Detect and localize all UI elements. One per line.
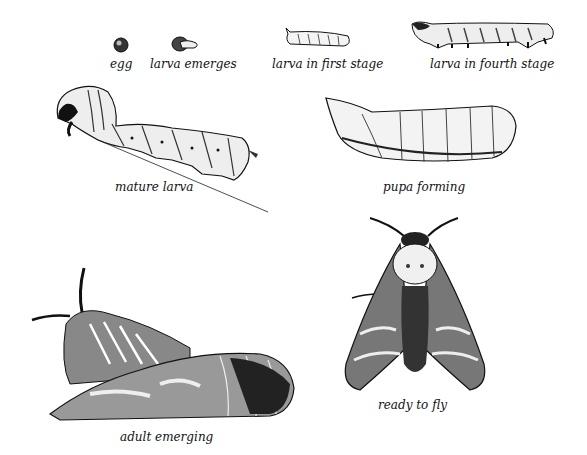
label-larva-first-stage: larva in first stage [272, 57, 383, 71]
larva-fourth-stage-illustration [408, 18, 558, 52]
label-adult-emerging: adult emerging [120, 430, 213, 444]
label-pupa-forming: pupa forming [383, 180, 465, 194]
ready-to-fly-illustration [340, 214, 490, 400]
larva-first-stage-illustration [282, 24, 354, 52]
adult-emerging-illustration [30, 264, 300, 424]
label-ready-to-fly: ready to fly [378, 398, 447, 412]
egg-illustration [112, 36, 132, 54]
label-larva-emerges: larva emerges [150, 57, 237, 71]
larva-emerges-illustration [170, 34, 202, 54]
label-mature-larva: mature larva [115, 180, 193, 194]
label-larva-fourth-stage: larva in fourth stage [430, 57, 554, 71]
label-egg: egg [110, 57, 132, 71]
mature-larva-illustration [52, 80, 272, 220]
pupa-forming-illustration [322, 94, 522, 174]
